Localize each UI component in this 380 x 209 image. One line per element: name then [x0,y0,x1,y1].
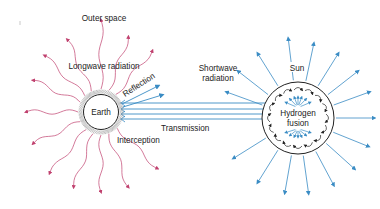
shortwave-label-line1: Shortwave [199,64,238,73]
longwave-radiation-label: Longwave radiation [68,62,139,71]
earth-label: Earth [91,108,111,117]
fusion-label: fusion [287,119,309,128]
interception-label: Interception [117,136,160,145]
outer-space-label: Outer space [82,14,127,23]
sun-label: Sun [290,64,305,73]
earth: Earth [79,90,124,135]
radiation-diagram: Earth Hydrogen fusion Outer space Longwa… [0,0,380,209]
transmission-label: Transmission [161,124,210,133]
sun-circle [262,82,334,154]
reflection-label: Reflection [121,71,157,99]
transmission-beams [120,100,266,122]
shortwave-label-line2: radiation [202,74,234,83]
sun: Hydrogen fusion [262,82,334,154]
hydrogen-label: Hydrogen [280,109,316,118]
